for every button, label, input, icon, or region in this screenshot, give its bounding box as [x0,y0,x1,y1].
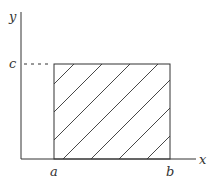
hatch-fill [54,64,221,159]
c-tick-label: c [9,56,17,71]
rectangle-region-diagram: y c a b x [0,0,221,179]
shaded-rectangle [54,64,170,159]
b-tick-label: b [166,164,174,179]
x-axis-label: x [199,152,207,167]
a-tick-label: a [50,164,58,179]
y-axis-label: y [8,9,17,24]
